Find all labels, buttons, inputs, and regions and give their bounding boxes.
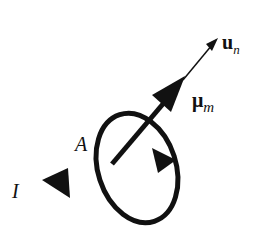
current-label: I — [12, 181, 19, 201]
unit-normal-label: un — [222, 32, 240, 52]
unit-normal-line — [183, 45, 212, 80]
area-label: A — [75, 134, 87, 154]
magnetic-moment-label: μm — [192, 90, 214, 110]
magnetic-moment-symbol: μ — [192, 89, 203, 111]
magnetic-moment-subscript: m — [203, 99, 214, 115]
dipole-diagram — [0, 0, 254, 250]
unit-normal-symbol: u — [222, 31, 233, 53]
magnetic-moment-arrowhead-icon — [152, 76, 185, 112]
unit-normal-subscript: n — [233, 42, 240, 57]
current-arrow-left-icon — [42, 168, 70, 198]
current-loop — [83, 103, 192, 234]
